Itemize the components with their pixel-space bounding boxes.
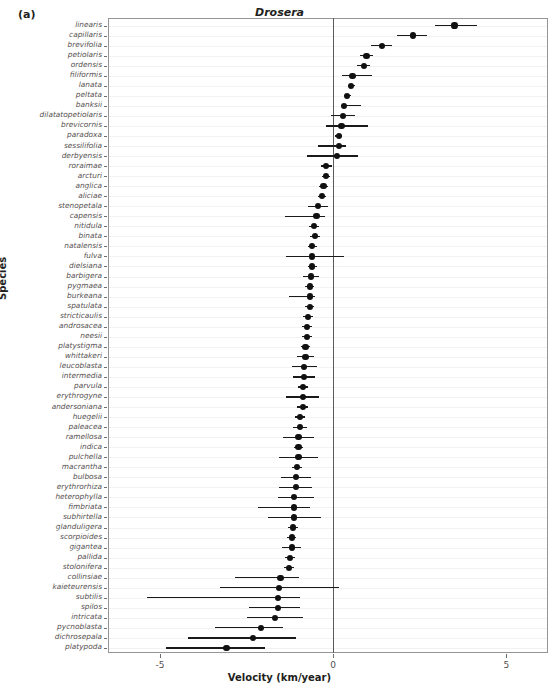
grid-line — [109, 507, 547, 508]
y-axis-tick-label: banksii — [76, 101, 102, 109]
grid-line — [109, 226, 547, 227]
y-axis-tick-label: androsacea — [59, 322, 102, 330]
y-axis-tick-label: intermedia — [62, 372, 102, 380]
x-axis-tick-mark — [333, 654, 334, 658]
grid-line — [109, 56, 547, 57]
grid-line — [109, 477, 547, 478]
y-axis-tick-mark — [104, 447, 107, 448]
data-point — [223, 645, 229, 651]
y-axis-tick-label: brevicornis — [61, 121, 102, 129]
y-axis-tick-label: subhirtella — [63, 513, 102, 521]
y-axis-tick-label: paradoxa — [67, 131, 102, 139]
y-axis-tick-mark — [104, 256, 107, 257]
data-point — [410, 32, 416, 38]
data-point — [291, 514, 297, 520]
y-axis-tick-mark — [104, 196, 107, 197]
y-axis-tick-label: anglica — [75, 182, 102, 190]
y-axis-tick-mark — [104, 236, 107, 237]
data-point — [289, 534, 295, 540]
y-axis-tick-mark — [104, 337, 107, 338]
y-axis-tick-label: stolonifera — [63, 563, 102, 571]
y-axis-tick-mark — [104, 86, 107, 87]
y-axis-tick-label: macrantha — [62, 463, 102, 471]
grid-line — [109, 337, 547, 338]
y-axis-tick-label: kaieteurensis — [52, 583, 102, 591]
error-bar — [188, 637, 296, 638]
y-axis-tick-mark — [104, 56, 107, 57]
data-point — [320, 183, 326, 189]
data-point — [286, 565, 292, 571]
grid-line — [109, 457, 547, 458]
y-axis-tick-mark — [104, 76, 107, 77]
y-axis-tick-mark — [104, 126, 107, 127]
data-point — [336, 133, 342, 139]
y-axis-tick-mark — [104, 46, 107, 47]
data-point — [338, 123, 344, 129]
y-axis-tick-mark — [104, 507, 107, 508]
y-axis-tick-mark — [104, 588, 107, 589]
y-axis-tick-mark — [104, 176, 107, 177]
data-point — [307, 304, 313, 310]
y-axis-tick-mark — [104, 457, 107, 458]
grid-line — [109, 236, 547, 237]
grid-line — [109, 196, 547, 197]
y-axis-tick-label: fimbriata — [68, 503, 102, 511]
y-axis-tick-mark — [104, 156, 107, 157]
y-axis-tick-mark — [104, 407, 107, 408]
grid-line — [109, 76, 547, 77]
grid-line — [109, 206, 547, 207]
y-axis-tick-mark — [104, 327, 107, 328]
y-axis-tick-label: whittakeri — [65, 352, 102, 360]
y-axis-tick-mark — [104, 618, 107, 619]
data-point — [313, 213, 319, 219]
x-axis-tick-label: 5 — [486, 660, 526, 670]
y-axis-tick-label: arcturi — [78, 172, 102, 180]
data-point — [451, 22, 457, 28]
y-axis-tick-mark — [104, 477, 107, 478]
grid-line — [109, 327, 547, 328]
y-axis-tick-mark — [104, 608, 107, 609]
y-axis-tick-label: roraimae — [69, 162, 102, 170]
error-bar — [235, 577, 299, 578]
y-axis-tick-label: heterophylla — [55, 493, 102, 501]
y-axis-tick-label: filiformis — [70, 71, 102, 79]
y-axis-tick-mark — [104, 297, 107, 298]
y-axis-tick-mark — [104, 347, 107, 348]
grid-line — [109, 377, 547, 378]
y-axis-tick-label: dichrosepala — [55, 633, 102, 641]
y-axis-tick-label: indica — [80, 443, 102, 451]
grid-line — [109, 116, 547, 117]
data-point — [379, 43, 385, 49]
data-point — [302, 354, 308, 360]
y-axis-tick-mark — [104, 548, 107, 549]
figure-container: (a) Drosera Species Velocity (km/year) l… — [0, 0, 559, 696]
data-point — [336, 143, 342, 149]
grid-line — [109, 578, 547, 579]
y-axis-tick-mark — [104, 66, 107, 67]
y-axis-tick-label: natalensis — [64, 242, 102, 250]
y-axis-tick-mark — [104, 377, 107, 378]
y-axis-tick-mark — [104, 246, 107, 247]
grid-line — [109, 307, 547, 308]
y-axis-tick-mark — [104, 26, 107, 27]
error-bar — [258, 507, 309, 508]
y-axis-tick-mark — [104, 36, 107, 37]
grid-line — [109, 26, 547, 27]
y-axis-tick-label: gigantea — [69, 543, 102, 551]
grid-line — [109, 407, 547, 408]
y-axis-tick-mark — [104, 638, 107, 639]
grid-line — [109, 467, 547, 468]
data-point — [291, 504, 297, 510]
y-axis-tick-mark — [104, 136, 107, 137]
y-axis-tick-mark — [104, 427, 107, 428]
y-axis-tick-mark — [104, 467, 107, 468]
y-axis-tick-mark — [104, 387, 107, 388]
grid-line — [109, 558, 547, 559]
grid-line — [109, 96, 547, 97]
y-axis-tick-mark — [104, 357, 107, 358]
y-axis-tick-label: subtilis — [76, 593, 102, 601]
y-axis-tick-mark — [104, 397, 107, 398]
data-point — [363, 53, 369, 59]
y-axis-tick-mark — [104, 186, 107, 187]
data-point — [308, 273, 314, 279]
